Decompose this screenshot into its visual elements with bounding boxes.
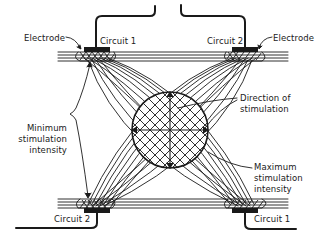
electrode-left-leader bbox=[66, 37, 80, 48]
maximum-leader bbox=[208, 152, 252, 168]
circuit2-top-label: Circuit 2 bbox=[207, 36, 243, 46]
minimum-label-line1: Minimum bbox=[7, 123, 67, 133]
electrode-top-right bbox=[232, 47, 258, 52]
interferential-diagram: Electrode Circuit 1 Circuit 2 Electrode … bbox=[0, 0, 328, 242]
circuit1-bottom-label: Circuit 1 bbox=[254, 214, 290, 224]
maximum-label-line1: Maximum bbox=[254, 162, 297, 172]
minimum-brace bbox=[70, 64, 90, 196]
electrode-bottom-left bbox=[84, 208, 110, 213]
direction-label-line2: stimulation bbox=[240, 104, 289, 114]
minimum-label-line3: intensity bbox=[7, 145, 67, 155]
electrode-top-right-zone bbox=[226, 52, 262, 60]
circuit2-bottom-label: Circuit 2 bbox=[54, 214, 90, 224]
minimum-label-line2: stimulation bbox=[7, 134, 67, 144]
circuit1-top-label: Circuit 1 bbox=[100, 36, 136, 46]
maximum-label-line2: stimulation bbox=[254, 173, 303, 183]
electrode-bottom-right bbox=[232, 208, 258, 213]
direction-label-line1: Direction of bbox=[240, 93, 291, 103]
maximum-label-line3: intensity bbox=[254, 184, 292, 194]
electrode-label-right: Electrode bbox=[273, 33, 314, 43]
electrode-label-left: Electrode bbox=[24, 33, 65, 43]
electrode-top-left bbox=[84, 47, 110, 52]
